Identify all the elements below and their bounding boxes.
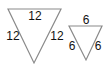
large-triangle-left-label: 12 xyxy=(6,29,20,43)
small-triangle: 6 6 6 xyxy=(69,13,102,60)
small-triangle-top-label: 6 xyxy=(83,13,90,27)
small-triangle-right-label: 6 xyxy=(95,39,102,53)
large-triangle-top-label: 12 xyxy=(28,9,42,23)
similar-triangles-diagram: 12 12 12 6 6 6 xyxy=(0,0,105,67)
large-triangle-right-label: 12 xyxy=(50,29,64,43)
large-triangle: 12 12 12 xyxy=(6,9,64,63)
small-triangle-left-label: 6 xyxy=(69,39,76,53)
